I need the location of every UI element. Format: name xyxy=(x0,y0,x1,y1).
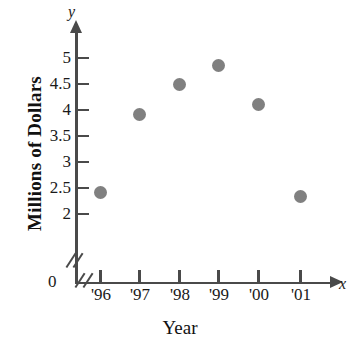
y-tick-mark xyxy=(77,213,89,216)
origin-zero-label: 0 xyxy=(48,273,57,290)
data-point xyxy=(94,186,107,199)
x-tick-mark xyxy=(217,270,220,282)
data-point xyxy=(252,98,265,111)
x-axis-title: Year xyxy=(120,318,240,337)
x-tick-label: '01 xyxy=(278,286,324,303)
y-axis-line xyxy=(75,30,78,283)
x-tick-mark xyxy=(178,270,181,282)
y-axis-arrow-icon xyxy=(70,20,82,33)
x-tick-label: '00 xyxy=(236,286,282,303)
x-axis-variable-label: x xyxy=(339,276,346,292)
data-point xyxy=(133,108,146,121)
x-tick-mark xyxy=(99,270,102,282)
data-point xyxy=(294,190,307,203)
x-tick-mark xyxy=(138,270,141,282)
x-tick-mark xyxy=(299,270,302,282)
y-tick-mark xyxy=(77,135,89,138)
y-tick-mark xyxy=(77,187,89,190)
scatter-plot-figure: y x 5 4.5 4 3.5 3 2.5 2 0 '96 '97 ' xyxy=(0,0,359,350)
y-tick-mark xyxy=(77,57,89,60)
data-point xyxy=(212,59,225,72)
x-tick-mark xyxy=(257,270,260,282)
data-point xyxy=(173,78,186,91)
y-tick-mark xyxy=(77,109,89,112)
y-tick-mark xyxy=(77,161,89,164)
y-axis-title: Millions of Dollars xyxy=(25,49,44,259)
x-axis-line xyxy=(75,282,333,285)
y-tick-mark xyxy=(77,83,89,86)
y-axis-variable-label: y xyxy=(68,4,75,20)
